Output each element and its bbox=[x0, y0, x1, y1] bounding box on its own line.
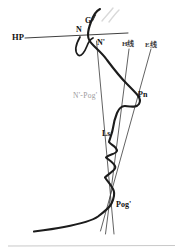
label-hp: HP bbox=[12, 32, 24, 42]
label-n-pog-line: N'-Pog' bbox=[73, 91, 98, 100]
ceph-tracing-canvas: HP N G N' H线 E线 N'-Pog' Pn Ls Pog' bbox=[0, 0, 177, 249]
label-soft-tissue-pogonion: Pog' bbox=[116, 200, 131, 209]
label-nasion: N bbox=[76, 25, 82, 34]
cephalometric-diagram: HP N G N' H线 E线 N'-Pog' Pn Ls Pog' bbox=[0, 0, 177, 249]
scan-edge-line bbox=[8, 246, 175, 247]
label-h-line: H线 bbox=[122, 39, 134, 48]
eye-loop-detail bbox=[76, 37, 93, 56]
label-pronasale: Pn bbox=[138, 90, 148, 99]
label-glabella: G bbox=[85, 16, 91, 25]
label-e-line: E线 bbox=[145, 40, 157, 49]
label-soft-tissue-nasion: N' bbox=[97, 38, 105, 47]
label-labrale-superius: Ls bbox=[102, 129, 110, 138]
